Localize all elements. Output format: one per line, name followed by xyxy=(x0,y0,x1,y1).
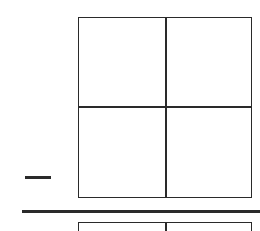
minus-dash-mark xyxy=(25,176,51,179)
main-grid-vertical-divider xyxy=(165,17,167,198)
lower-grid-vertical-divider xyxy=(165,222,167,231)
section-divider-rule xyxy=(22,210,260,213)
main-grid-horizontal-divider xyxy=(78,106,252,108)
